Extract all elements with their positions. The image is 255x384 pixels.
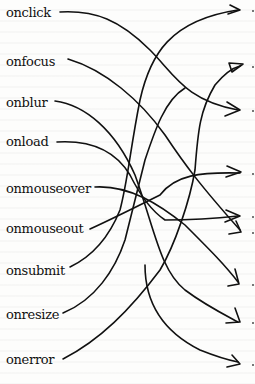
connector-onmouseover (95, 187, 238, 282)
arrowhead-8 (226, 308, 240, 323)
target-8[interactable] (252, 322, 254, 324)
matching-lines (0, 0, 255, 384)
connector-onclick (60, 12, 238, 110)
connector-onerror (63, 66, 240, 359)
target-7[interactable] (252, 284, 254, 286)
target-6[interactable] (252, 232, 254, 234)
connector-onfocus (68, 59, 240, 230)
arrowhead-6 (229, 221, 241, 234)
target-9[interactable] (252, 364, 254, 366)
connector-onblur (55, 101, 238, 322)
connector-onsubmit (70, 10, 238, 267)
connector-onresize-tail (145, 265, 238, 362)
target-3[interactable] (252, 110, 254, 112)
arrowheads (225, 5, 243, 367)
target-2[interactable] (252, 66, 254, 68)
arrowhead-4 (226, 166, 241, 177)
target-1[interactable] (252, 10, 254, 12)
target-5[interactable] (252, 216, 254, 218)
connector-onresize (63, 88, 185, 313)
arrowhead-1 (228, 5, 240, 14)
target-4[interactable] (252, 173, 254, 175)
